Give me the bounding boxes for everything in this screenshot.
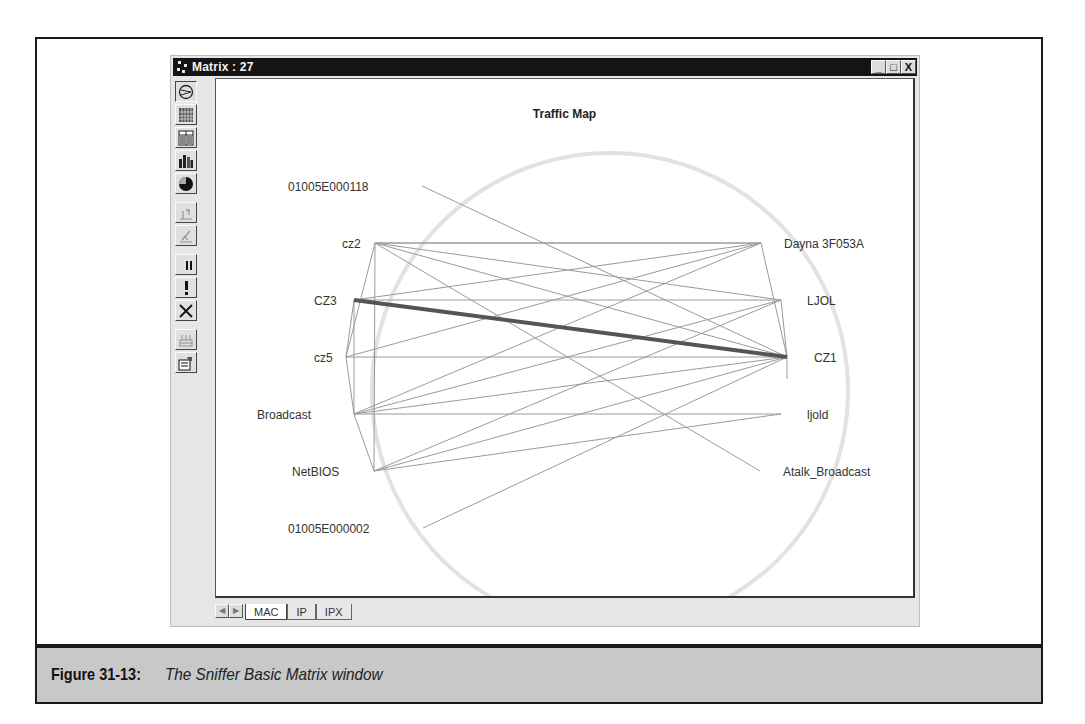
clear-icon (178, 303, 194, 319)
traffic-map-button[interactable] (175, 81, 197, 102)
pie-chart-icon (178, 176, 194, 192)
node-atalk-broadcast[interactable]: Atalk_Broadcast (783, 465, 870, 479)
outline-view-button[interactable] (175, 104, 197, 125)
clear-button[interactable] (175, 300, 197, 321)
node-cz3[interactable]: CZ3 (314, 294, 337, 308)
sort-button[interactable] (175, 202, 197, 223)
node-cz5[interactable]: cz5 (314, 351, 333, 365)
tab-ip[interactable]: IP (287, 604, 315, 620)
node-ljold[interactable]: ljold (807, 408, 828, 422)
sort-icon (178, 205, 194, 221)
matrix-window: Matrix : 27 _ □ X (170, 55, 920, 627)
filter-button[interactable] (175, 225, 197, 246)
tab-ipx[interactable]: IPX (316, 604, 352, 620)
node-dayna-3f053a[interactable]: Dayna 3F053A (784, 237, 864, 251)
alert-icon (178, 280, 194, 296)
bar-view-button[interactable] (175, 150, 197, 171)
figure-number: Figure 31-13: (51, 665, 145, 685)
maximize-button[interactable]: □ (886, 60, 901, 74)
map-circle (372, 153, 848, 598)
node-netbios[interactable]: NetBIOS (292, 465, 339, 479)
close-button[interactable]: X (901, 60, 916, 74)
node-broadcast[interactable]: Broadcast (257, 408, 311, 422)
node-01005e000118[interactable]: 01005E000118 (288, 180, 369, 194)
traffic-map-icon (178, 84, 194, 100)
window-title: Matrix : 27 (192, 60, 254, 74)
pause-button[interactable] (175, 254, 197, 275)
node-01005e000002[interactable]: 01005E000002 (288, 522, 369, 536)
title-bar[interactable]: Matrix : 27 _ □ X (173, 58, 917, 76)
pie-view-button[interactable] (175, 173, 197, 194)
minimize-button[interactable]: _ (871, 60, 886, 74)
tab-mac[interactable]: MAC (245, 604, 287, 620)
figure-caption: Figure 31-13: The Sniffer Basic Matrix w… (35, 644, 1043, 704)
traffic-map-title: Traffic Map (216, 107, 913, 121)
properties-icon (178, 355, 194, 371)
bar-chart-icon (178, 153, 194, 169)
heaviest-link[interactable] (354, 300, 787, 357)
properties-button[interactable] (175, 352, 197, 373)
protocol-tab-bar: ◀ ▶ MAC IP IPX (215, 599, 915, 623)
node-cz2[interactable]: cz2 (342, 237, 361, 251)
filter-icon (178, 228, 194, 244)
matrix-app-icon (176, 60, 190, 74)
network-button[interactable] (175, 329, 197, 350)
traffic-links (346, 186, 787, 528)
detail-table-icon (178, 130, 194, 146)
node-ljol[interactable]: LJOL (807, 294, 836, 308)
pause-icon (178, 257, 194, 273)
matrix-toolbar (175, 81, 201, 375)
node-cz1[interactable]: CZ1 (814, 351, 837, 365)
traffic-map-graph (216, 79, 915, 598)
network-icon (178, 332, 194, 348)
traffic-map-canvas[interactable]: Traffic Map 01005E000118 cz2 CZ3 cz5 Bro… (215, 78, 915, 598)
alert-button[interactable] (175, 277, 197, 298)
outline-grid-icon (178, 107, 194, 123)
detail-view-button[interactable] (175, 127, 197, 148)
tab-scroll-right-button[interactable]: ▶ (229, 604, 243, 618)
figure-caption-text: The Sniffer Basic Matrix window (165, 665, 383, 685)
tab-scroll-left-button[interactable]: ◀ (215, 604, 229, 618)
